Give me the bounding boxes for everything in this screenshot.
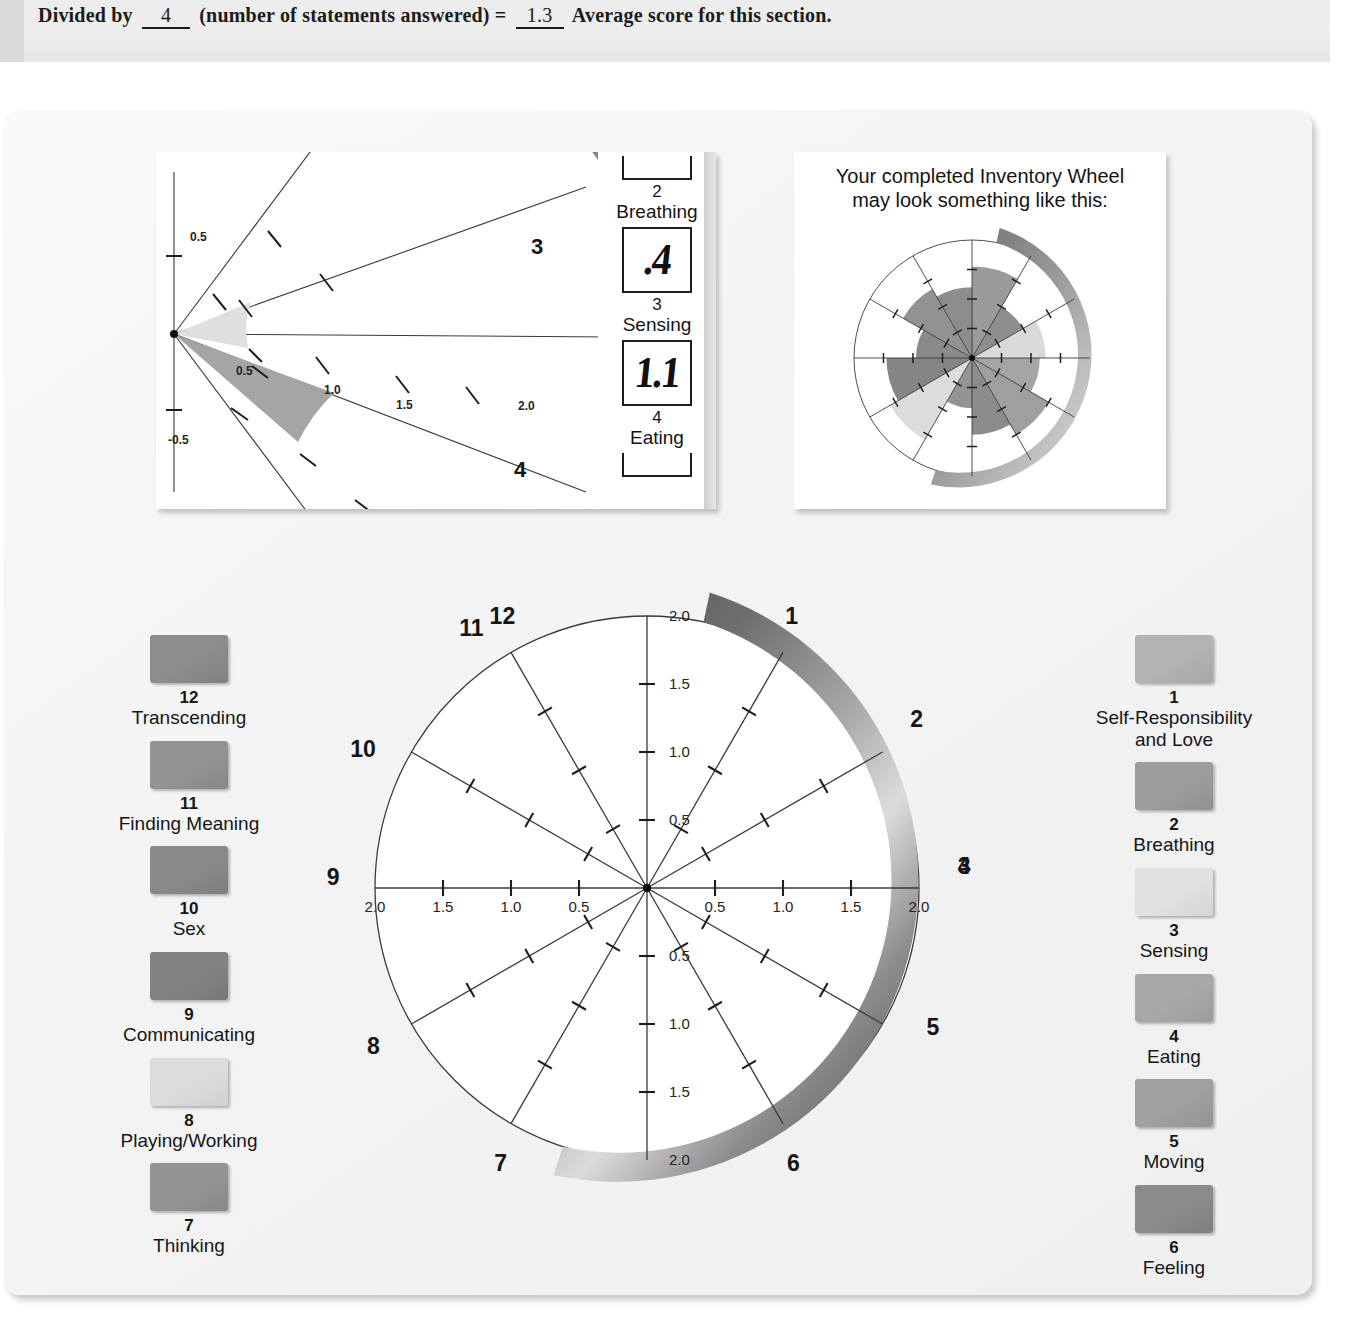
top-strip-accent-bar [0,0,24,62]
score-number: 3 [598,295,716,315]
legend-label: Breathing [1049,834,1299,856]
wheel-sector-number-9: 9 [327,864,340,890]
handwritten-score: 1.1 [632,347,681,399]
legend-number: 3 [1049,921,1299,940]
example-wheel-title: Your completed Inventory Wheel may look … [794,164,1166,213]
legend-item[interactable]: 3Sensing [1049,868,1299,962]
divisor-value[interactable]: 4 [142,4,190,29]
score-box[interactable]: 1.1 [622,340,692,406]
score-entry [598,453,716,477]
legend-color-chip [150,635,228,683]
score-entry-strip: 2 Breathing .4 3 Sensing 1.1 4 Eating [598,152,716,509]
legend-label: Communicating [64,1024,314,1046]
wheel-sector-number-2: 2 [910,706,923,732]
legend-item[interactable]: 9Communicating [64,952,314,1046]
legend-color-chip [150,846,228,894]
legend-color-chip [1135,974,1213,1022]
score-number: 4 [598,408,716,428]
legend-item[interactable]: 1Self-Responsibilityand Love [1049,635,1299,750]
legend-color-chip [1135,1079,1213,1127]
wheel-sector-number-1: 1 [785,603,798,629]
wheel-sector-number-4: 4 [958,853,971,879]
legend-label: Thinking [64,1235,314,1257]
legend-item[interactable]: 5Moving [1049,1079,1299,1173]
legend-label: Sensing [1049,940,1299,962]
wheel-sector-number-6: 6 [787,1150,800,1176]
legend-item[interactable]: 2Breathing [1049,762,1299,856]
strip-divider [704,152,716,509]
inset-left-sector-3: 3 [531,234,543,259]
wheel-axis-label: 1.0 [501,898,522,915]
score-number: 2 [598,182,716,202]
wheel-axis-label: 1.5 [669,1083,690,1100]
legend-label: Sex [64,918,314,940]
wheel-axis-label: 0.5 [669,947,690,964]
wheel-sector-number-8: 8 [367,1033,380,1059]
legend-item[interactable]: 11Finding Meaning [64,741,314,835]
legend-number: 4 [1049,1027,1299,1046]
score-box[interactable] [622,453,692,477]
legend-color-chip [1135,762,1213,810]
wheel-axis-label: 1.0 [669,1015,690,1032]
inset-left-sector-4: 4 [514,457,527,482]
legend-item[interactable]: 4Eating [1049,974,1299,1068]
wheel-sector-number-10: 10 [350,736,376,762]
score-entry: 2 Breathing [598,156,716,223]
wheel-axis-label: 2.0 [669,1151,690,1168]
main-inventory-wheel[interactable]: 1234567891011120.51.01.52.00.51.01.52.00… [279,520,1039,1280]
legend-number: 9 [64,1005,314,1024]
wheel-axis-label: 1.0 [669,743,690,760]
wheel-axis-label: 0.5 [569,898,590,915]
legend-right: 1Self-Responsibilityand Love2Breathing3S… [1049,635,1299,1291]
handwritten-score: .4 [641,234,672,286]
inset-left-tick-2: 1.0 [324,383,341,397]
inventory-wheel-panel: 0.5 0.5 1.0 1.5 2.0 -0.5 3 4 2 Breathing… [4,110,1312,1295]
wheel-axis-label: 1.5 [433,898,454,915]
inset-left-tick-1: 0.5 [236,364,253,378]
legend-number: 8 [64,1111,314,1130]
inset-left-tick-5: -0.5 [168,433,189,447]
legend-number: 5 [1049,1132,1299,1151]
wheel-axis-label: 1.5 [841,898,862,915]
average-score-value[interactable]: 1.3 [516,4,564,29]
wheel-sector-number-11: 11 [459,615,484,641]
legend-item[interactable]: 10Sex [64,846,314,940]
legend-item[interactable]: 8Playing/Working [64,1058,314,1152]
legend-number: 7 [64,1216,314,1235]
main-wheel-diagram[interactable]: 1234567891011120.51.01.52.00.51.01.52.00… [279,520,1039,1280]
wheel-axis-label: 2.0 [365,898,386,915]
score-box[interactable]: .4 [622,227,692,293]
legend-color-chip [1135,868,1213,916]
example-wheel-diagram [794,218,1166,508]
legend-label: Self-Responsibilityand Love [1049,707,1299,750]
score-entry: .4 3 Sensing [598,227,716,336]
wheel-sector-number-5: 5 [926,1014,939,1040]
legend-item[interactable]: 12Transcending [64,635,314,729]
inset-left-tick-4: 2.0 [518,399,535,413]
wheel-axis-label: 2.0 [669,607,690,624]
legend-label: Eating [1049,1046,1299,1068]
legend-left: 12Transcending11Finding Meaning10Sex9Com… [64,635,314,1269]
legend-label: Moving [1049,1151,1299,1173]
wheel-axis-label: 0.5 [669,811,690,828]
score-label: Breathing [598,202,716,223]
legend-item[interactable]: 7Thinking [64,1163,314,1257]
wheel-axis-label: 0.5 [705,898,726,915]
inset-left-tick-3: 1.5 [396,398,413,412]
score-box[interactable] [622,156,692,180]
legend-number: 11 [64,794,314,813]
example-wheel-title-line2: may look something like this: [794,188,1166,212]
legend-color-chip [1135,635,1213,683]
legend-number: 12 [64,688,314,707]
legend-item[interactable]: 6Feeling [1049,1185,1299,1279]
score-label: Sensing [598,315,716,336]
legend-number: 6 [1049,1238,1299,1257]
legend-color-chip [150,1058,228,1106]
score-entry: 1.1 4 Eating [598,340,716,449]
legend-number: 10 [64,899,314,918]
legend-label: Finding Meaning [64,813,314,835]
score-label: Eating [598,428,716,449]
divided-by-middle: (number of statements answered) [199,4,489,26]
legend-color-chip [150,952,228,1000]
wheel-axis-label: 1.0 [773,898,794,915]
